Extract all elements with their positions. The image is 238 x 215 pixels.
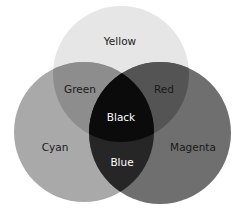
label-cyan: Cyan [42,141,69,153]
label-red: Red [154,83,174,95]
label-blue: Blue [110,156,133,168]
label-yellow: Yellow [103,35,137,47]
label-magenta: Magenta [170,141,216,153]
label-green: Green [64,83,96,95]
venn-diagram: Yellow Green Red Black Cyan Magenta Blue [0,0,238,215]
label-black: Black [107,111,136,123]
